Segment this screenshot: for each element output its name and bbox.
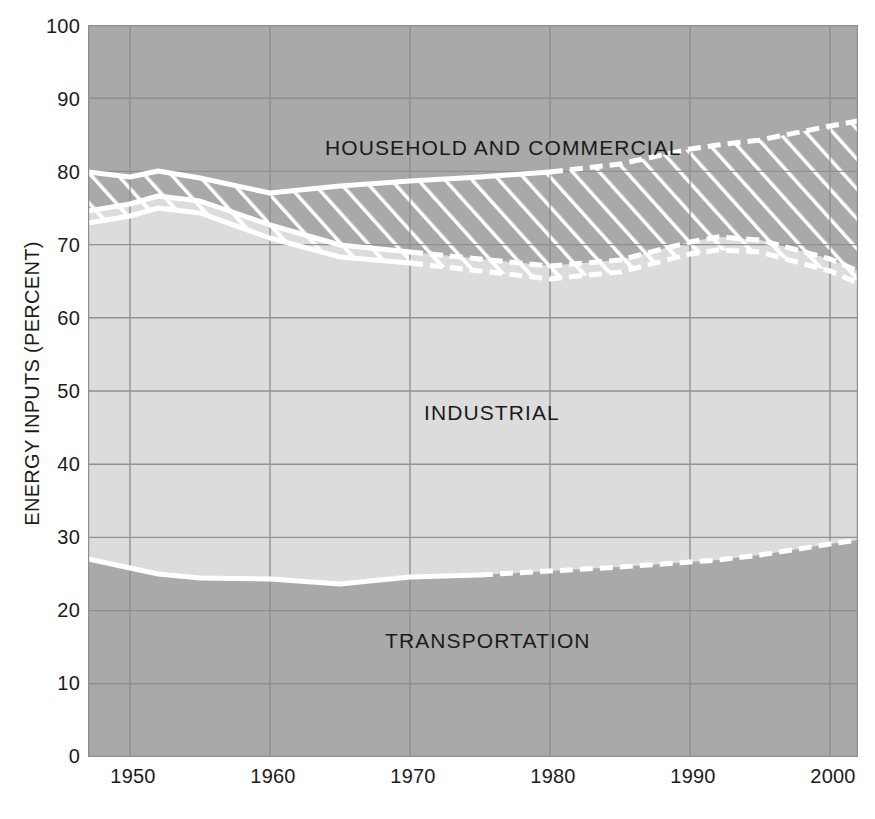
x-axis-tick-layer: 1950 1960 1970 1980 1990 2000 — [0, 766, 875, 806]
y-tick-40: 40 — [10, 454, 80, 474]
y-tick-30: 30 — [10, 527, 80, 547]
series-label-household-commercial: HOUSEHOLD AND COMMERCIAL — [325, 136, 682, 160]
y-axis-tick-layer: 100 90 80 70 60 50 40 30 20 10 0 — [0, 0, 80, 819]
series-label-transportation: TRANSPORTATION — [385, 629, 591, 653]
series-label-industrial: INDUSTRIAL — [424, 401, 560, 425]
y-tick-20: 20 — [10, 600, 80, 620]
x-tick-1950: 1950 — [88, 766, 178, 786]
y-tick-10: 10 — [10, 673, 80, 693]
y-tick-90: 90 — [10, 89, 80, 109]
y-tick-0: 0 — [10, 746, 80, 766]
y-tick-70: 70 — [10, 235, 80, 255]
energy-inputs-area-chart: ENERGY INPUTS (PERCENT) 100 90 80 70 60 … — [0, 0, 875, 819]
x-tick-1970: 1970 — [368, 766, 458, 786]
y-tick-50: 50 — [10, 381, 80, 401]
x-tick-1990: 1990 — [648, 766, 738, 786]
x-tick-1960: 1960 — [228, 766, 318, 786]
x-tick-2000: 2000 — [788, 766, 875, 786]
x-tick-1980: 1980 — [508, 766, 598, 786]
y-tick-100: 100 — [10, 16, 80, 36]
y-tick-60: 60 — [10, 308, 80, 328]
y-tick-80: 80 — [10, 162, 80, 182]
